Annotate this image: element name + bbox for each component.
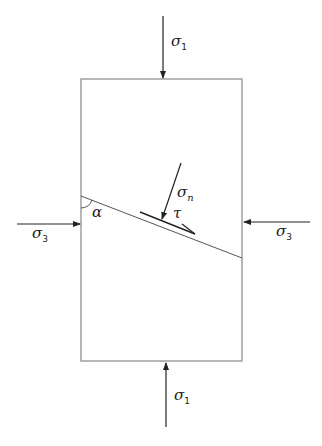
sigma3-right-label: σ3: [276, 222, 292, 242]
sigma3-left-label: σ3: [32, 224, 48, 244]
sigma1-top-label: σ1: [171, 32, 187, 52]
sigma1-bottom-label: σ1: [174, 386, 190, 406]
alpha-angle-arc: [81, 200, 92, 208]
alpha-label: α: [92, 203, 102, 221]
stress-diagram: σ1 σ1 σ3 σ3 σn τ α: [0, 0, 322, 446]
failure-plane: [81, 196, 242, 258]
tau-shear-line: [140, 212, 195, 234]
sigma-n-label: σn: [177, 183, 194, 203]
tau-label: τ: [173, 204, 182, 222]
